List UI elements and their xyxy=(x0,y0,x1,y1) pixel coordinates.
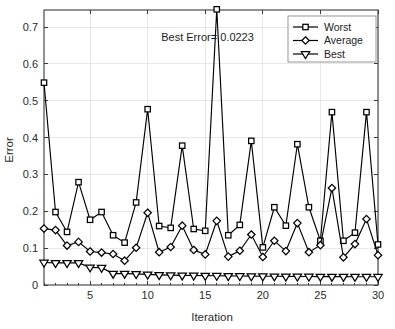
data-point-square xyxy=(156,223,161,228)
data-point-square xyxy=(295,142,300,147)
data-point-diamond xyxy=(40,225,47,232)
data-point-triangle-down xyxy=(224,274,232,281)
x-tick-label: 30 xyxy=(372,289,384,301)
data-point-diamond xyxy=(202,251,209,258)
data-point-square xyxy=(237,222,242,227)
legend[interactable]: WorstAverageBest xyxy=(288,16,376,62)
data-point-diamond xyxy=(213,217,220,224)
data-point-diamond xyxy=(363,215,370,222)
data-point-square xyxy=(180,143,185,148)
y-tick-label: 0.6 xyxy=(23,58,38,70)
data-point-square xyxy=(352,230,357,235)
data-point-diamond xyxy=(109,250,116,257)
data-point-triangle-down xyxy=(362,274,370,281)
data-point-diamond xyxy=(294,219,301,226)
data-point-triangle-down xyxy=(339,274,347,281)
data-point-diamond xyxy=(225,253,232,260)
data-point-diamond xyxy=(190,246,197,253)
data-point-square xyxy=(249,138,254,143)
data-point-square xyxy=(145,106,150,111)
data-point-diamond xyxy=(98,249,105,256)
data-point-square xyxy=(122,240,127,245)
x-tick-label: 10 xyxy=(142,289,154,301)
data-point-triangle-down xyxy=(132,272,140,279)
data-point-square xyxy=(283,223,288,228)
data-point-square xyxy=(306,205,311,210)
y-axis-title: Error xyxy=(3,137,15,163)
data-point-square xyxy=(168,225,173,230)
data-point-diamond xyxy=(167,243,174,250)
data-point-square xyxy=(133,200,138,205)
data-point-triangle-down xyxy=(374,274,382,281)
data-point-triangle-down xyxy=(40,260,48,267)
data-point-triangle-down xyxy=(270,274,278,281)
data-point-square xyxy=(99,209,104,214)
data-point-square xyxy=(214,7,219,12)
data-point-square xyxy=(329,109,334,114)
chart-figure: 00.10.20.30.40.50.60.7 51015202530 Best … xyxy=(0,0,395,329)
data-point-triangle-down xyxy=(305,274,313,281)
data-point-triangle-down xyxy=(51,261,59,268)
data-point-triangle-down xyxy=(86,265,94,272)
data-point-triangle-down xyxy=(201,273,209,280)
data-point-square xyxy=(375,242,380,247)
series-best xyxy=(40,260,382,281)
y-tick-label: 0 xyxy=(32,279,38,291)
y-tick-label: 0.5 xyxy=(23,95,38,107)
data-point-square xyxy=(76,179,81,184)
series-line-average xyxy=(44,188,378,261)
data-point-triangle-down xyxy=(259,274,267,281)
data-point-triangle-down xyxy=(120,271,128,278)
data-point-diamond xyxy=(328,184,335,191)
data-point-diamond xyxy=(305,248,312,255)
data-point-square xyxy=(226,233,231,238)
x-axis-title: Iteration xyxy=(191,311,233,323)
data-point-triangle-down xyxy=(143,272,151,279)
data-point-diamond xyxy=(144,209,151,216)
y-tick-label: 0.1 xyxy=(23,242,38,254)
data-point-triangle-down xyxy=(178,273,186,280)
data-point-triangle-down xyxy=(190,273,198,280)
x-tick-label: 25 xyxy=(314,289,326,301)
data-point-triangle-down xyxy=(293,274,301,281)
data-point-triangle-down xyxy=(213,273,221,280)
legend-label: Worst xyxy=(324,21,351,33)
data-point-diamond xyxy=(259,253,266,260)
data-point-square xyxy=(110,233,115,238)
legend-marker-square xyxy=(303,24,308,29)
data-point-square xyxy=(191,226,196,231)
data-point-square xyxy=(364,109,369,114)
data-point-triangle-down xyxy=(328,274,336,281)
x-tick-label: 15 xyxy=(199,289,211,301)
data-point-diamond xyxy=(155,248,162,255)
legend-label: Average xyxy=(324,34,363,46)
data-point-triangle-down xyxy=(282,274,290,281)
data-point-triangle-down xyxy=(63,261,71,268)
data-point-triangle-down xyxy=(236,274,244,281)
data-point-square xyxy=(260,245,265,250)
y-tick-label: 0.2 xyxy=(23,205,38,217)
annotation-layer: Best Error= 0.0223 xyxy=(161,31,254,43)
data-point-triangle-down xyxy=(316,274,324,281)
data-point-triangle-down xyxy=(247,274,255,281)
data-point-square xyxy=(53,209,58,214)
data-point-triangle-down xyxy=(109,271,117,278)
y-tick-label: 0.4 xyxy=(23,132,38,144)
chart-annotation: Best Error= 0.0223 xyxy=(161,31,254,43)
data-point-triangle-down xyxy=(166,273,174,280)
data-point-diamond xyxy=(248,231,255,238)
series-average xyxy=(40,184,381,264)
data-point-square xyxy=(41,80,46,85)
y-axis-tick-labels: 00.10.20.30.40.50.60.7 xyxy=(23,21,38,291)
data-point-square xyxy=(203,228,208,233)
y-tick-label: 0.7 xyxy=(23,21,38,33)
legend-label: Best xyxy=(324,48,345,60)
data-point-diamond xyxy=(374,251,381,258)
data-point-diamond xyxy=(179,222,186,229)
y-tick-label: 0.3 xyxy=(23,168,38,180)
data-point-square xyxy=(272,205,277,210)
data-point-triangle-down xyxy=(155,273,163,280)
x-axis-tick-labels: 51015202530 xyxy=(87,289,384,301)
data-point-square xyxy=(87,217,92,222)
data-point-triangle-down xyxy=(351,274,359,281)
